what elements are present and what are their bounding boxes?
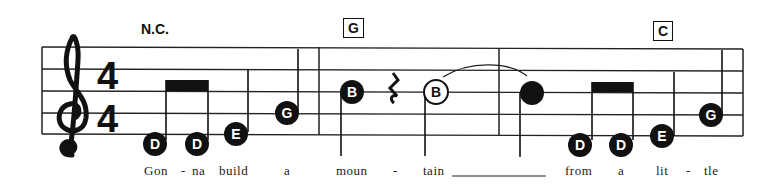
lyric: from (565, 163, 592, 179)
lyric: lit (656, 163, 668, 179)
time-signature-bottom: 4 (97, 98, 118, 140)
lyric: na (192, 163, 205, 179)
lyric: tain (423, 163, 445, 179)
lyric: a (618, 163, 624, 179)
lyric: build (219, 163, 248, 179)
lyric: a (284, 163, 290, 179)
svg-text:E: E (231, 126, 240, 142)
svg-text:E: E (657, 128, 666, 144)
chord-nc: N.C. (141, 21, 169, 37)
lyric: Gon (144, 163, 168, 179)
svg-text:D: D (575, 137, 585, 153)
lyric: - (686, 163, 691, 179)
svg-text:B: B (431, 84, 441, 100)
svg-text:D: D (192, 136, 202, 152)
beam (166, 80, 208, 91)
lyric: - (181, 163, 186, 179)
svg-text:G: G (706, 107, 717, 123)
beam (592, 82, 633, 92)
quarter-rest-icon (390, 73, 398, 103)
lyric: tle (704, 163, 719, 179)
time-signature-top: 4 (97, 55, 118, 97)
lyric: - (393, 163, 398, 179)
svg-text:G: G (282, 105, 293, 121)
svg-text:B: B (347, 84, 357, 100)
chord-g: G (343, 18, 364, 38)
svg-text:D: D (616, 137, 626, 153)
lyric: moun (336, 163, 368, 179)
svg-text:D: D (150, 136, 160, 152)
treble-clef-icon (59, 37, 86, 156)
chord-c: C (653, 21, 673, 41)
